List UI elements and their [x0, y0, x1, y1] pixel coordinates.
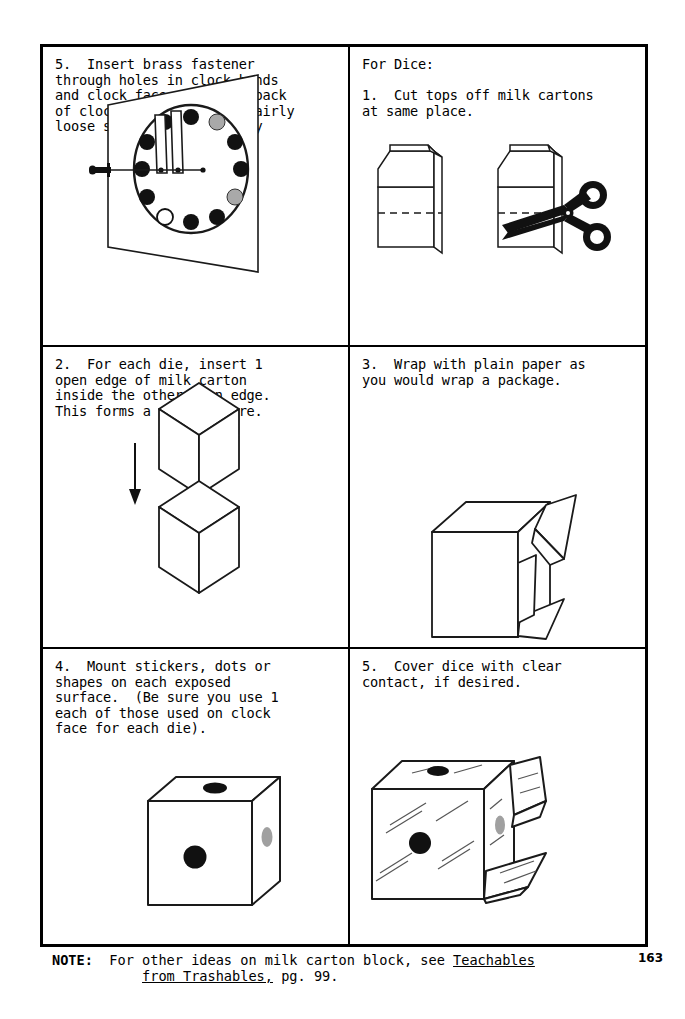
instruction-grid: 5. Insert brass fastener through holes i…: [40, 44, 648, 947]
panel-step5-clock: 5. Insert brass fastener through holes i…: [43, 47, 350, 347]
page: 5. Insert brass fastener through holes i…: [0, 0, 685, 1019]
note-book-title-part2: from Trashables,: [142, 968, 273, 984]
die-illustration: [43, 649, 348, 944]
page-number: 163: [638, 951, 663, 965]
panel-step5-contact: 5. Cover dice with clear contact, if des…: [350, 649, 648, 944]
note-book-title-part1: Teachables: [453, 952, 535, 968]
clock-board-illustration: [43, 47, 348, 345]
note-line1-before: For other ideas on milk carton block, se…: [109, 952, 453, 968]
note-line2-after: pg. 99.: [273, 968, 338, 984]
cubes-illustration: [43, 347, 348, 647]
milk-cartons-illustration: [350, 47, 648, 345]
contact-covered-die-illustration: [350, 649, 648, 944]
panel-step4-stickers: 4. Mount stickers, dots or shapes on eac…: [43, 649, 350, 944]
footer-note: NOTE: For other ideas on milk carton blo…: [52, 952, 535, 984]
wrapped-box-illustration: [350, 347, 648, 647]
note-label: NOTE:: [52, 952, 93, 968]
panel-step2-cubes: 2. For each die, insert 1 open edge of m…: [43, 347, 350, 649]
panel-step1-cartons: For Dice: 1. Cut tops off milk cartons a…: [350, 47, 648, 347]
panel-step3-wrap: 3. Wrap with plain paper as you would wr…: [350, 347, 648, 649]
